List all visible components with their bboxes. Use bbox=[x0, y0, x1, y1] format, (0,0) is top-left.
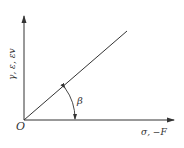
angle-label: β bbox=[76, 95, 83, 106]
x-axis-label: σ, −F bbox=[141, 127, 167, 137]
linear-relation-line bbox=[24, 31, 127, 120]
origin-label: O bbox=[16, 120, 25, 133]
y-axis-label: γ, ε, εv bbox=[7, 48, 17, 80]
diagram-canvas: O β σ, −F γ, ε, εv bbox=[0, 0, 184, 148]
angle-arc bbox=[65, 88, 75, 119]
